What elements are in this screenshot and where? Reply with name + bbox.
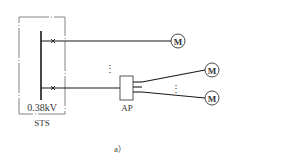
motor-label: M (174, 37, 183, 47)
single-line-diagram: ⋮ ⋮ M M M 0.38kV STS AP a） (0, 0, 297, 159)
sts-enclosure (19, 17, 65, 114)
motor-2: M (205, 63, 219, 77)
sts-label: STS (34, 118, 50, 128)
motor-label: M (208, 94, 217, 104)
sts-voltage-label: 0.38kV (27, 102, 58, 113)
motor-3: M (205, 91, 219, 105)
motor-label: M (208, 66, 217, 76)
figure-caption: a） (114, 145, 126, 154)
motor-1: M (171, 34, 185, 48)
ap-label: AP (121, 103, 133, 113)
ap-output-1-branch (142, 70, 205, 82)
feeder-ellipsis: ⋮ (105, 63, 115, 74)
ap-box (120, 76, 133, 100)
motor-ellipsis: ⋮ (171, 83, 181, 94)
